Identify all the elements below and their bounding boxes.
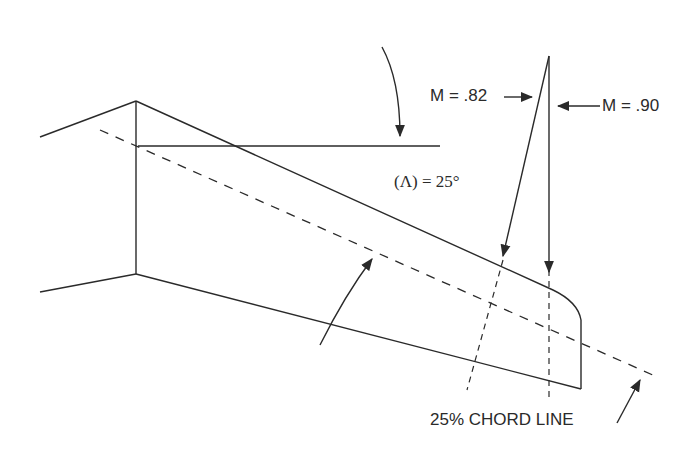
sweep-angle-arrow-bottom bbox=[320, 259, 372, 345]
swept-wing-diagram: M = .82 M = .90 (Λ) = 25° 25% CHORD LINE bbox=[0, 0, 697, 462]
sweep-angle-label: (Λ) = 25° bbox=[394, 172, 460, 192]
quarter-chord-line bbox=[100, 130, 655, 376]
chord-line-pointer-arrow bbox=[617, 380, 640, 423]
mach-082-vector bbox=[503, 56, 549, 256]
normal-component-dashed-line bbox=[467, 260, 503, 390]
mach-090-label: M = .90 bbox=[602, 96, 659, 116]
mach-082-label: M = .82 bbox=[430, 86, 487, 106]
wing-outline bbox=[136, 101, 581, 389]
fuselage-outline bbox=[40, 101, 136, 292]
sweep-angle-arrow-top bbox=[382, 47, 400, 136]
wing-drawing bbox=[0, 0, 697, 462]
chord-line-label: 25% CHORD LINE bbox=[430, 410, 574, 430]
